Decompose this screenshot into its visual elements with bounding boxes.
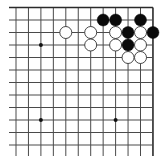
black-stone[interactable] <box>110 14 122 26</box>
black-stone[interactable] <box>135 14 147 26</box>
black-stone[interactable] <box>147 27 159 39</box>
go-board[interactable] <box>0 0 165 159</box>
white-stone[interactable] <box>85 27 97 39</box>
white-stone[interactable] <box>110 39 122 51</box>
white-stone[interactable] <box>135 39 147 51</box>
star-point <box>39 43 43 47</box>
white-stone[interactable] <box>122 52 134 64</box>
black-stone[interactable] <box>122 27 134 39</box>
go-board-canvas[interactable] <box>0 0 165 159</box>
star-point <box>39 118 43 122</box>
white-stone[interactable] <box>60 27 72 39</box>
white-stone[interactable] <box>135 52 147 64</box>
stones <box>60 14 159 64</box>
white-stone[interactable] <box>110 27 122 39</box>
white-stone[interactable] <box>85 39 97 51</box>
star-point <box>114 118 118 122</box>
black-stone[interactable] <box>97 14 109 26</box>
white-stone[interactable] <box>135 27 147 39</box>
black-stone[interactable] <box>122 39 134 51</box>
